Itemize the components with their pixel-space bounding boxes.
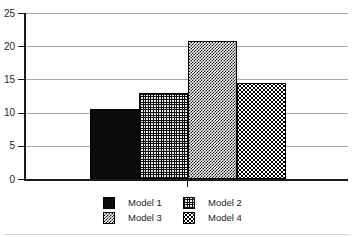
bar-model-1 (90, 109, 139, 179)
x-axis-line (24, 179, 348, 181)
x-axis-category-tick (187, 181, 188, 187)
legend-swatch-grid-icon (183, 197, 195, 209)
gridline-15 (26, 79, 348, 80)
legend-swatch-solid-black-icon (103, 197, 115, 209)
bar-model-2 (139, 93, 188, 179)
y-axis-label-25: 25 (0, 8, 15, 19)
legend-swatch-checker-icon (103, 212, 115, 224)
bar-chart-figure: Model 1 Model 2 Model 3 Model 4 05101520… (0, 0, 353, 237)
legend-label-model-3: Model 3 (128, 212, 162, 224)
legend-label-model-4: Model 4 (208, 212, 242, 224)
y-axis-tick-0 (18, 179, 25, 180)
y-axis-label-5: 5 (0, 140, 15, 151)
gridline-25 (26, 13, 348, 14)
legend-item-model-4: Model 4 (183, 212, 263, 224)
y-axis-label-10: 10 (0, 107, 15, 118)
y-axis-line (24, 13, 26, 181)
y-axis-label-20: 20 (0, 41, 15, 52)
legend: Model 1 Model 2 Model 3 Model 4 (103, 197, 263, 224)
y-axis-tick-10 (18, 113, 25, 114)
legend-item-model-1: Model 1 (103, 197, 183, 209)
legend-swatch-dots-icon (183, 212, 195, 224)
y-axis-tick-5 (18, 146, 25, 147)
y-axis-tick-15 (18, 79, 25, 80)
bar-model-3 (188, 41, 237, 179)
bar-model-4 (237, 83, 286, 179)
legend-label-model-1: Model 1 (128, 197, 162, 209)
legend-label-model-2: Model 2 (208, 197, 242, 209)
legend-item-model-2: Model 2 (183, 197, 263, 209)
gridline-20 (26, 46, 348, 47)
y-axis-tick-25 (18, 13, 25, 14)
figure-bottom-edge-line (3, 234, 350, 235)
y-axis-tick-20 (18, 46, 25, 47)
y-axis-label-0: 0 (0, 174, 15, 185)
legend-item-model-3: Model 3 (103, 212, 183, 224)
y-axis-label-15: 15 (0, 74, 15, 85)
